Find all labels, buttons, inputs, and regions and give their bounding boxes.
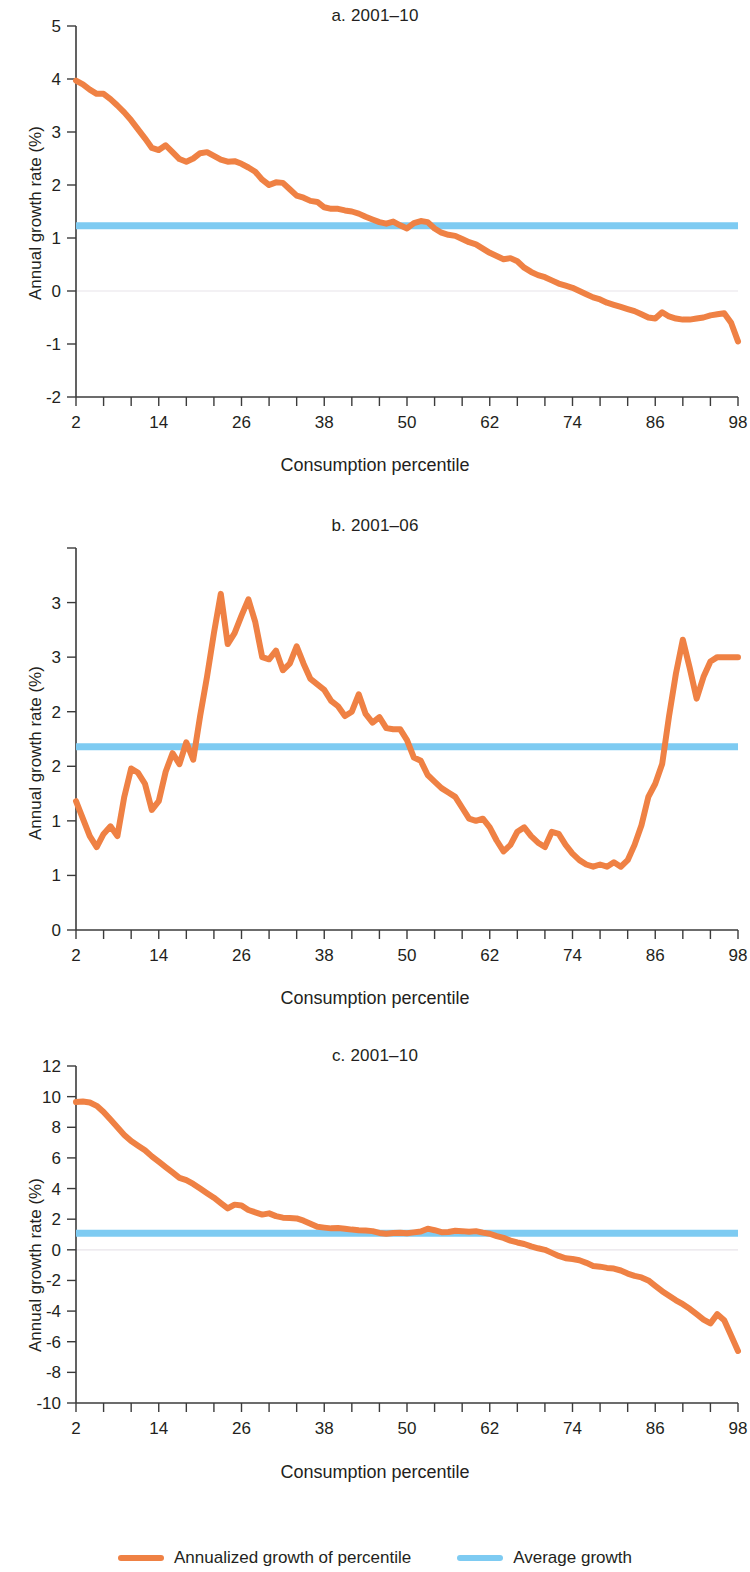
svg-text:86: 86 [646,1419,665,1438]
panel-c-x-axis-label: Consumption percentile [0,1462,750,1483]
svg-text:14: 14 [149,946,168,965]
svg-text:12: 12 [42,1057,61,1076]
legend-item-series: Annualized growth of percentile [118,1548,411,1568]
panel-c-y-axis-label: Annual growth rate (%) [26,1178,46,1352]
chart-panel-a: a. 2001–10 -2-101234521426385062748698 A… [0,0,750,510]
svg-text:3: 3 [52,123,61,142]
svg-text:98: 98 [729,946,748,965]
svg-text:-2: -2 [46,388,61,407]
svg-text:50: 50 [398,1419,417,1438]
svg-text:6: 6 [52,1149,61,1168]
svg-text:26: 26 [232,946,251,965]
svg-text:74: 74 [563,946,582,965]
svg-text:2: 2 [52,703,61,722]
svg-text:1: 1 [52,812,61,831]
svg-text:62: 62 [480,413,499,430]
svg-text:1: 1 [52,866,61,885]
svg-text:-1: -1 [46,335,61,354]
svg-text:98: 98 [729,1419,748,1438]
legend-swatch-series-line [118,1555,164,1561]
svg-text:1: 1 [52,229,61,248]
legend-label-average: Average growth [513,1548,632,1568]
svg-text:-6: -6 [46,1333,61,1352]
svg-text:-2: -2 [46,1271,61,1290]
chart-panel-b: b. 2001–06 011223321426385062748698 Annu… [0,510,750,1040]
svg-text:86: 86 [646,413,665,430]
svg-text:50: 50 [398,413,417,430]
svg-text:38: 38 [315,413,334,430]
chart-panel-c: c. 2001–10 -10-8-6-4-2024681012214263850… [0,1040,750,1510]
figure-legend: Annualized growth of percentile Average … [0,1548,750,1568]
svg-text:-4: -4 [46,1302,61,1321]
svg-text:14: 14 [149,413,168,430]
svg-text:26: 26 [232,1419,251,1438]
svg-text:2: 2 [52,1210,61,1229]
panel-a-y-axis-label: Annual growth rate (%) [26,126,46,300]
svg-text:4: 4 [52,70,61,89]
svg-text:2: 2 [71,413,80,430]
panel-b-y-axis-label: Annual growth rate (%) [26,666,46,840]
svg-text:98: 98 [729,413,748,430]
svg-text:2: 2 [52,757,61,776]
svg-text:0: 0 [52,921,61,940]
svg-text:62: 62 [480,1419,499,1438]
svg-text:5: 5 [52,17,61,36]
svg-text:2: 2 [71,1419,80,1438]
svg-text:-8: -8 [46,1363,61,1382]
panel-a-x-axis-label: Consumption percentile [0,455,750,476]
legend-swatch-average-line [457,1555,503,1561]
svg-text:2: 2 [71,946,80,965]
svg-text:62: 62 [480,946,499,965]
panel-b-plot: 011223321426385062748698 [0,510,750,965]
svg-text:-10: -10 [36,1394,61,1413]
svg-text:50: 50 [398,946,417,965]
svg-text:26: 26 [232,413,251,430]
svg-text:8: 8 [52,1118,61,1137]
svg-text:3: 3 [52,594,61,613]
panel-a-plot: -2-101234521426385062748698 [0,0,750,430]
svg-text:10: 10 [42,1088,61,1107]
growth-incidence-figure: a. 2001–10 -2-101234521426385062748698 A… [0,0,750,1572]
svg-text:3: 3 [52,648,61,667]
svg-text:38: 38 [315,1419,334,1438]
legend-label-series: Annualized growth of percentile [174,1548,411,1568]
svg-text:4: 4 [52,1180,61,1199]
panel-c-plot: -10-8-6-4-202468101221426385062748698 [0,1040,750,1440]
svg-text:74: 74 [563,413,582,430]
svg-text:74: 74 [563,1419,582,1438]
svg-text:2: 2 [52,176,61,195]
svg-text:0: 0 [52,1241,61,1260]
svg-text:14: 14 [149,1419,168,1438]
svg-text:0: 0 [52,282,61,301]
svg-text:38: 38 [315,946,334,965]
svg-text:86: 86 [646,946,665,965]
panel-b-x-axis-label: Consumption percentile [0,988,750,1009]
legend-item-average: Average growth [457,1548,632,1568]
